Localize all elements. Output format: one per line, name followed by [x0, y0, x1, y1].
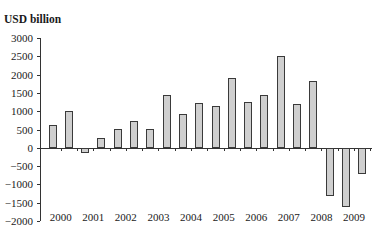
bar-2000-h2: [65, 111, 73, 148]
bar-2001-h1: [81, 148, 89, 153]
y-tick-label: −1500: [0, 197, 33, 209]
y-tick-label: 2000: [0, 69, 33, 81]
x-tick-mark: [158, 148, 159, 151]
x-tick-mark: [370, 148, 371, 151]
bar-2009-h1: [342, 148, 350, 207]
bar-2004-h2: [195, 103, 203, 148]
bar-2001-h2: [97, 138, 105, 148]
bar-2004-h1: [179, 114, 187, 148]
bar-2000-h1: [49, 125, 57, 148]
x-tick-mark: [338, 148, 339, 151]
y-tick-label: 500: [0, 124, 33, 136]
bar-2008-h1: [309, 81, 317, 148]
x-tick-mark: [77, 148, 78, 151]
y-tick-label: 1000: [0, 105, 33, 117]
y-tick-label: 2500: [0, 50, 33, 62]
x-tick-mark: [142, 148, 143, 151]
bar-2005-h1: [212, 106, 220, 148]
x-tick-mark: [289, 148, 290, 151]
x-tick-mark: [191, 148, 192, 151]
x-tick-mark: [305, 148, 306, 151]
y-axis-title: USD billion: [4, 13, 61, 25]
bar-2009-h2: [358, 148, 366, 174]
bar-2008-h2: [326, 148, 334, 196]
y-tick-label: 1500: [0, 87, 33, 99]
x-tick-mark: [175, 148, 176, 151]
x-tick-mark: [207, 148, 208, 151]
x-tick-mark: [224, 148, 225, 151]
x-tick-mark: [256, 148, 257, 151]
x-tick-mark: [240, 148, 241, 151]
y-tick-label: −500: [0, 160, 33, 172]
bar-2005-h2: [228, 78, 236, 148]
x-tick-mark: [354, 148, 355, 151]
y-tick-label: 0: [0, 142, 33, 154]
bar-2002-h2: [130, 121, 138, 147]
bar-2002-h1: [114, 129, 122, 148]
x-tick-mark: [273, 148, 274, 151]
x-tick-label: 2009: [334, 211, 374, 223]
bar-2007-h1: [277, 56, 285, 148]
bar-chart: USD billion 300025002000150010005000−500…: [0, 0, 382, 243]
bar-2003-h1: [146, 129, 154, 148]
x-tick-mark: [110, 148, 111, 151]
y-tick-mark: [37, 221, 40, 222]
bar-2006-h2: [260, 95, 268, 148]
bar-2007-h2: [293, 104, 301, 148]
y-tick-label: −1000: [0, 178, 33, 190]
bar-2006-h1: [244, 102, 252, 148]
y-tick-label: −2000: [0, 215, 33, 227]
x-tick-mark: [321, 148, 322, 151]
x-tick-mark: [61, 148, 62, 151]
y-axis-line: [40, 38, 41, 221]
x-tick-mark: [126, 148, 127, 151]
y-tick-label: 3000: [0, 32, 33, 44]
bar-2003-h2: [163, 95, 171, 147]
x-tick-mark: [93, 148, 94, 151]
